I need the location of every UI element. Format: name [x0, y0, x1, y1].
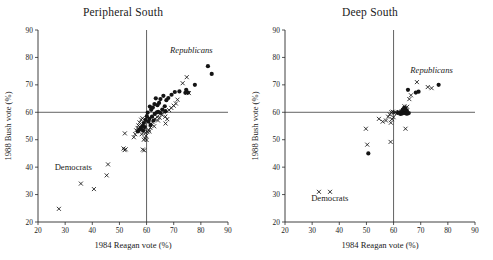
scatter-plot-deep-south: 203040506070809020304050607080901984 Rea…	[247, 0, 493, 260]
y-tick-label: 70	[273, 80, 281, 89]
data-point-cross	[430, 86, 434, 90]
data-point-circle	[154, 96, 158, 100]
data-point-cross	[57, 207, 61, 211]
data-point-cross	[174, 102, 178, 106]
data-point-cross	[381, 120, 385, 124]
x-tick-label: 90	[224, 226, 232, 235]
data-point-cross	[141, 116, 145, 120]
x-tick-label: 30	[61, 226, 69, 235]
x-tick-label: 60	[143, 226, 151, 235]
scatter-plot-peripheral-south: 203040506070809020304050607080901984 Rea…	[0, 0, 246, 260]
data-point-cross	[415, 80, 419, 84]
data-point-circle	[406, 88, 410, 92]
y-tick-label: 90	[273, 26, 281, 35]
data-point-circle	[158, 97, 162, 101]
republicans-label: Republicans	[409, 65, 453, 75]
data-point-cross	[365, 143, 369, 147]
x-tick-label: 90	[471, 226, 479, 235]
data-point-cross	[409, 93, 413, 97]
democrats-label: Democrats	[55, 162, 93, 172]
data-point-circle	[210, 72, 214, 76]
data-point-cross	[176, 98, 180, 102]
y-tick-label: 90	[26, 26, 34, 35]
data-point-circle	[148, 104, 152, 108]
data-point-cross	[106, 162, 110, 166]
y-tick-label: 20	[26, 218, 34, 227]
x-tick-label: 50	[363, 226, 371, 235]
data-point-cross	[426, 85, 430, 89]
data-point-cross	[123, 131, 127, 135]
y-tick-label: 30	[26, 190, 34, 199]
y-tick-label: 50	[26, 135, 34, 144]
x-tick-label: 20	[34, 226, 42, 235]
data-point-cross	[105, 173, 109, 177]
data-point-circle	[161, 94, 165, 98]
democrats-label: Democrats	[311, 193, 349, 203]
data-point-circle	[366, 151, 370, 155]
data-point-cross	[152, 124, 156, 128]
x-axis-title: 1984 Reagan vote (%)	[341, 240, 418, 250]
x-tick-label: 70	[170, 226, 178, 235]
panel-peripheral-south: Peripheral South 20304050607080902030405…	[0, 0, 246, 260]
data-point-cross	[185, 75, 189, 79]
x-axis-title: 1984 Reagan vote (%)	[94, 240, 171, 250]
panel-deep-south: Deep South 20304050607080902030405060708…	[247, 0, 493, 260]
data-point-circle	[414, 90, 418, 94]
data-point-circle	[206, 64, 210, 68]
data-point-cross	[142, 148, 146, 152]
data-point-cross	[384, 119, 388, 123]
data-point-circle	[145, 114, 149, 118]
data-point-circle	[405, 109, 409, 113]
data-point-cross	[407, 97, 411, 101]
x-tick-label: 80	[444, 226, 452, 235]
republicans-label: Republicans	[169, 45, 213, 55]
data-point-cross	[164, 122, 168, 126]
data-point-cross	[181, 81, 185, 85]
y-tick-label: 70	[26, 80, 34, 89]
y-tick-label: 80	[26, 53, 34, 62]
data-point-cross	[92, 187, 96, 191]
data-point-cross	[404, 127, 408, 131]
x-tick-label: 20	[281, 226, 289, 235]
data-point-cross	[389, 140, 393, 144]
data-point-circle	[164, 98, 168, 102]
data-point-circle	[173, 90, 177, 94]
data-point-circle	[169, 93, 173, 97]
y-axis-title: 1988 Bush vote (%)	[3, 91, 13, 160]
data-point-cross	[364, 127, 368, 131]
x-tick-label: 80	[197, 226, 205, 235]
x-tick-label: 50	[116, 226, 124, 235]
data-point-circle	[146, 110, 150, 114]
x-tick-label: 40	[89, 226, 97, 235]
y-axis-title: 1988 Bush vote (%)	[250, 91, 260, 160]
data-point-circle	[177, 89, 181, 93]
x-tick-label: 40	[336, 226, 344, 235]
data-point-cross	[165, 117, 169, 121]
y-tick-label: 40	[26, 163, 34, 172]
data-point-cross	[79, 182, 83, 186]
x-tick-label: 30	[308, 226, 316, 235]
x-tick-label: 60	[390, 226, 398, 235]
data-point-circle	[152, 102, 156, 106]
y-tick-label: 60	[273, 108, 281, 117]
y-tick-label: 20	[273, 218, 281, 227]
y-tick-label: 60	[26, 108, 34, 117]
y-tick-label: 30	[273, 190, 281, 199]
x-tick-label: 70	[417, 226, 425, 235]
data-point-cross	[377, 117, 381, 121]
data-point-circle	[437, 83, 441, 87]
data-point-cross	[389, 121, 393, 125]
y-tick-label: 40	[273, 163, 281, 172]
data-point-circle	[193, 83, 197, 87]
y-tick-label: 80	[273, 53, 281, 62]
figure-root: Peripheral South 20304050607080902030405…	[0, 0, 493, 260]
y-tick-label: 50	[273, 135, 281, 144]
